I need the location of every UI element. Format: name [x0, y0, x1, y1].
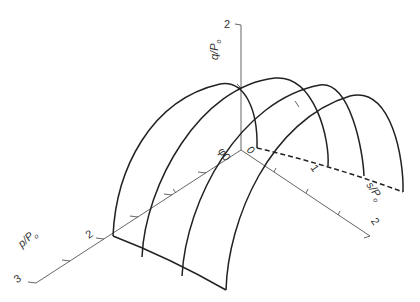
s-axis-end-tick	[364, 236, 370, 238]
p-axis-tick-1-5	[130, 216, 138, 217]
p-axis-tick-2-5	[62, 260, 70, 261]
p-axis-end-tick	[28, 282, 36, 283]
arch-tick-1-front	[173, 189, 176, 193]
arch-1	[113, 84, 257, 236]
q-axis-tick-2	[235, 24, 241, 25]
arch-3	[182, 85, 364, 276]
s-axis-tick-1	[306, 189, 308, 193]
s-axis-label: s/Po	[363, 179, 386, 203]
surface-diagram: 2 q/Po 2 3 p/Po 1 2 s/Po φ0 0	[0, 0, 420, 302]
p-tick-label-2: 2	[83, 227, 95, 240]
p-axis-tick-0-5	[198, 172, 206, 173]
svg-text:s/Po: s/Po	[363, 179, 386, 203]
front-base-curve	[113, 236, 226, 290]
p-axis-tick-2	[96, 238, 104, 239]
arch-tick-1-back	[295, 101, 299, 107]
s-tick-label-2: 2	[369, 215, 382, 227]
origin-zero-label: 0	[244, 144, 257, 156]
p-tick-label-3: 3	[11, 272, 23, 285]
svg-text:p/Po: p/Po	[15, 227, 40, 252]
s-axis	[241, 150, 370, 236]
q-tick-label-2: 2	[224, 18, 230, 30]
p-axis	[36, 150, 241, 283]
s-axis-tick-1-5	[338, 211, 340, 215]
arch-2	[142, 78, 328, 257]
p-axis-label: p/Po	[15, 227, 40, 252]
q-axis-label: q/Po	[208, 39, 222, 60]
p-axis-tick-1	[164, 194, 172, 195]
svg-text:q/Po: q/Po	[208, 39, 222, 60]
dashed-base-curve	[257, 148, 403, 192]
s-axis-tick-0-5	[274, 168, 276, 172]
